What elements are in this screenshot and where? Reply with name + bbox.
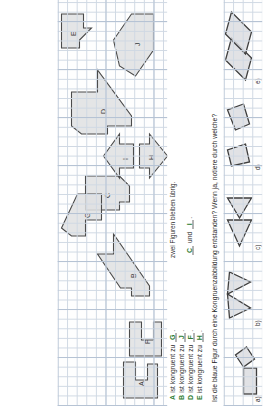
answer-row-2[interactable]: D ist kongruent zu F . <box>187 330 196 400</box>
answer-period: . <box>169 330 176 332</box>
figure-bank-panel: A B C D E <box>58 0 168 406</box>
answer-period: . <box>187 330 194 332</box>
answer-right-letter: H <box>196 333 204 342</box>
answer-phrase: ist kongruent zu <box>169 345 176 393</box>
answer-phrase: ist kongruent zu <box>196 345 203 393</box>
answer-row-1[interactable]: B ist kongruent zu J . <box>178 330 187 400</box>
graph-grid-major-top <box>58 0 168 406</box>
leftover-period: . <box>186 217 193 219</box>
answer-left-letter: E <box>196 395 203 400</box>
leftover-row[interactable]: C und I . <box>186 217 195 256</box>
leftover-note: zwei Figuren bleiben übrig. <box>169 182 176 258</box>
answer-left-letter: B <box>178 395 185 400</box>
answer-lines-panel: A ist kongruent zu G . B ist kongruent z… <box>168 0 206 406</box>
answer-period: . <box>178 330 185 332</box>
answer-row-3[interactable]: E ist kongruent zu H . <box>196 330 205 400</box>
leftover-second-letter: I <box>186 220 194 229</box>
leftover-conjunction: und <box>186 232 193 243</box>
worksheet-page: A B C D E <box>58 0 206 406</box>
answer-phrase: ist kongruent zu <box>178 345 185 393</box>
answer-left-letter: A <box>169 395 176 400</box>
answer-phrase: ist kongruent zu <box>187 345 194 393</box>
answer-right-letter: G <box>169 333 177 342</box>
answer-right-letter: F <box>187 333 195 342</box>
answer-left-letter: D <box>187 395 194 400</box>
answer-period: . <box>196 330 203 332</box>
answer-row-0[interactable]: A ist kongruent zu G . <box>169 330 178 400</box>
leftover-first-letter: C <box>186 246 194 255</box>
answer-right-letter: J <box>178 333 186 342</box>
